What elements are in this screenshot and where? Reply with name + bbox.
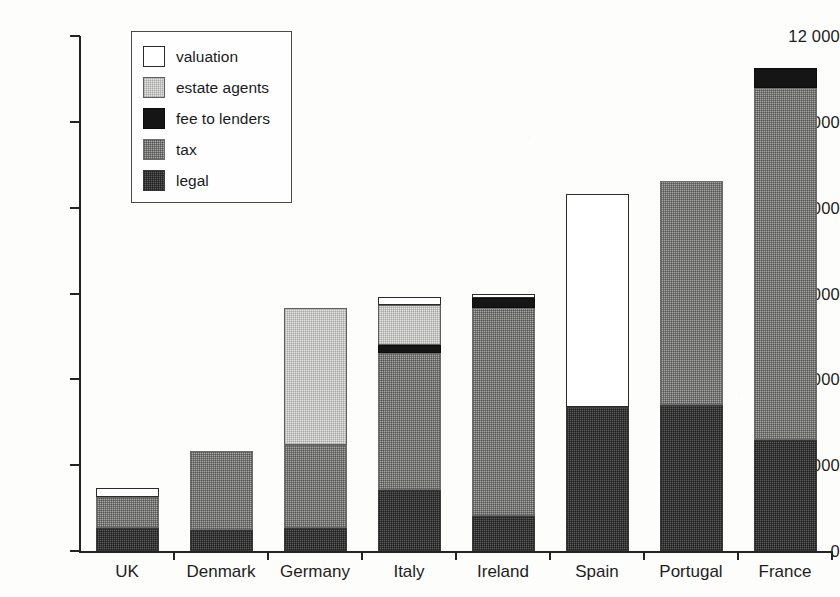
legend-item-estate-agents: estate agents xyxy=(143,72,291,103)
x-axis-category-label: Italy xyxy=(362,563,456,582)
bar-segment-fee-to-lenders xyxy=(472,298,535,308)
x-axis-category-label: Spain xyxy=(550,563,644,582)
bar-italy xyxy=(378,36,441,551)
legend-label: tax xyxy=(176,142,197,158)
bar-segment-estate-agents xyxy=(284,308,347,445)
bar-segment-tax xyxy=(190,451,253,530)
bar-segment-valuation xyxy=(472,294,535,298)
bar-segment-legal xyxy=(660,405,723,551)
y-tick-mark xyxy=(70,121,80,123)
legend-label: fee to lenders xyxy=(176,111,270,127)
y-tick-mark xyxy=(70,35,80,37)
x-tick-mark xyxy=(267,551,269,560)
y-tick-mark xyxy=(70,207,80,209)
bar-segment-legal xyxy=(190,530,253,551)
x-axis-category-label: Denmark xyxy=(174,563,268,582)
bar-segment-fee-to-lenders xyxy=(754,68,817,88)
x-axis-category-label: Portugal xyxy=(644,563,738,582)
bar-segment-legal xyxy=(284,528,347,551)
bar-segment-legal xyxy=(96,528,159,551)
x-tick-mark xyxy=(737,551,739,560)
bar-segment-estate-agents xyxy=(378,305,441,345)
bar-ireland xyxy=(472,36,535,551)
stacked-bar-chart: 0200040006000800010 00012 000 UKDenmarkG… xyxy=(0,0,840,597)
estate-agents-swatch xyxy=(143,77,165,98)
legend-item-legal: legal xyxy=(143,165,291,196)
x-axis-category-label: Ireland xyxy=(456,563,550,582)
legend-label: estate agents xyxy=(176,80,269,96)
y-tick-mark xyxy=(70,550,80,552)
chart-legend: valuationestate agentsfee to lenderstaxl… xyxy=(131,31,292,203)
bar-segment-valuation xyxy=(96,488,159,497)
y-tick-mark xyxy=(70,464,80,466)
bar-france xyxy=(754,36,817,551)
valuation-swatch xyxy=(143,46,165,67)
bar-germany xyxy=(284,36,347,551)
x-tick-mark xyxy=(549,551,551,560)
bar-segment-tax xyxy=(754,88,817,440)
bar-segment-tax xyxy=(378,353,441,490)
bar-segment-valuation xyxy=(566,194,629,407)
tax-swatch xyxy=(143,139,165,160)
legal-swatch xyxy=(143,170,165,191)
x-tick-mark xyxy=(361,551,363,560)
x-tick-mark xyxy=(173,551,175,560)
y-tick-mark xyxy=(70,293,80,295)
x-axis-category-label: UK xyxy=(80,563,174,582)
legend-item-valuation: valuation xyxy=(143,41,291,72)
bar-segment-tax xyxy=(284,445,347,528)
x-tick-mark xyxy=(455,551,457,560)
bar-spain xyxy=(566,36,629,551)
legend-item-tax: tax xyxy=(143,134,291,165)
bar-segment-tax xyxy=(660,181,723,405)
x-axis-category-label: Germany xyxy=(268,563,362,582)
bar-segment-legal xyxy=(472,516,535,551)
fee-to-lenders-swatch xyxy=(143,108,165,129)
x-tick-mark xyxy=(831,551,833,560)
legend-label: valuation xyxy=(176,49,238,65)
bar-segment-tax xyxy=(96,497,159,528)
bar-segment-tax xyxy=(472,308,535,516)
x-axis-category-label: France xyxy=(738,563,832,582)
legend-item-fee-to-lenders: fee to lenders xyxy=(143,103,291,134)
y-tick-mark xyxy=(70,378,80,380)
bar-segment-legal xyxy=(566,407,629,551)
bar-segment-valuation xyxy=(378,297,441,305)
bar-portugal xyxy=(660,36,723,551)
x-tick-mark xyxy=(643,551,645,560)
bar-segment-legal xyxy=(378,490,441,551)
legend-label: legal xyxy=(176,173,209,189)
bar-segment-legal xyxy=(754,440,817,551)
bar-segment-fee-to-lenders xyxy=(378,345,441,353)
